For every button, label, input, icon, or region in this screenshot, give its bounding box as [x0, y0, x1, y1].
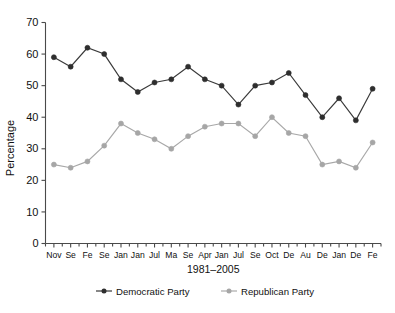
data-point-democratic	[51, 55, 56, 60]
data-point-republican	[118, 121, 123, 126]
data-point-democratic	[286, 71, 291, 76]
x-axis-title: 1981–2005	[187, 263, 240, 275]
data-point-republican	[169, 146, 174, 151]
y-axis-title: Percentage	[4, 120, 16, 176]
y-tick-label: 70	[26, 16, 38, 28]
y-tick-label: 10	[26, 206, 38, 218]
x-tick-label: Apr	[198, 250, 212, 260]
data-point-republican	[303, 134, 308, 139]
data-point-democratic	[269, 80, 274, 85]
x-tick-label: De	[350, 250, 361, 260]
data-point-republican	[236, 121, 241, 126]
series-line-republican	[54, 117, 373, 168]
y-tick-label: 0	[32, 237, 38, 249]
data-point-republican	[186, 134, 191, 139]
data-point-republican	[353, 165, 358, 170]
data-point-democratic	[337, 96, 342, 101]
x-tick-label: Jul	[233, 250, 244, 260]
y-tick-label: 60	[26, 48, 38, 60]
data-point-democratic	[118, 77, 123, 82]
x-tick-label: Oct	[265, 250, 279, 260]
y-tick-label: 50	[26, 79, 38, 91]
data-point-democratic	[68, 64, 73, 69]
x-tick-label: Jan	[114, 250, 128, 260]
data-point-democratic	[236, 102, 241, 107]
x-tick-label: Fe	[82, 250, 92, 260]
y-tick-label: 40	[26, 111, 38, 123]
x-tick-label: Jan	[332, 250, 346, 260]
series-line-democratic	[54, 48, 373, 121]
x-tick-label: Se	[183, 250, 194, 260]
line-chart: 010203040506070NovSeFeSeJanJanJulMaSeApr…	[0, 0, 395, 313]
data-point-democratic	[353, 118, 358, 123]
legend-label-democratic: Democratic Party	[116, 286, 190, 297]
x-tick-label: Jul	[149, 250, 160, 260]
data-point-democratic	[202, 77, 207, 82]
data-point-democratic	[370, 86, 375, 91]
x-tick-label: Se	[65, 250, 76, 260]
x-tick-label: De	[283, 250, 294, 260]
data-point-republican	[102, 143, 107, 148]
data-point-democratic	[303, 93, 308, 98]
x-tick-label: Se	[99, 250, 110, 260]
data-point-republican	[85, 159, 90, 164]
legend-marker-republican	[227, 289, 232, 294]
data-point-democratic	[169, 77, 174, 82]
x-tick-label: De	[317, 250, 328, 260]
data-point-republican	[253, 134, 258, 139]
chart-container: 010203040506070NovSeFeSeJanJanJulMaSeApr…	[0, 0, 395, 313]
data-point-republican	[320, 162, 325, 167]
x-tick-label: Fe	[368, 250, 378, 260]
legend-label-republican: Republican Party	[241, 286, 314, 297]
data-point-democratic	[85, 45, 90, 50]
legend-marker-democratic	[102, 289, 107, 294]
x-tick-label: Jan	[215, 250, 229, 260]
x-tick-label: Jan	[131, 250, 145, 260]
data-point-democratic	[253, 83, 258, 88]
data-point-republican	[68, 165, 73, 170]
data-point-republican	[202, 124, 207, 129]
x-tick-label: Nov	[46, 250, 62, 260]
data-point-republican	[370, 140, 375, 145]
data-point-republican	[286, 131, 291, 136]
data-point-republican	[51, 162, 56, 167]
data-point-republican	[152, 137, 157, 142]
data-point-republican	[219, 121, 224, 126]
x-tick-label: Ma	[165, 250, 177, 260]
data-point-democratic	[135, 89, 140, 94]
y-tick-label: 20	[26, 174, 38, 186]
data-point-republican	[337, 159, 342, 164]
data-point-democratic	[320, 115, 325, 120]
y-tick-label: 30	[26, 142, 38, 154]
data-point-republican	[135, 131, 140, 136]
chart-svg: 010203040506070NovSeFeSeJanJanJulMaSeApr…	[0, 0, 395, 313]
x-tick-label: Se	[250, 250, 261, 260]
data-point-democratic	[186, 64, 191, 69]
data-point-democratic	[152, 80, 157, 85]
data-point-democratic	[219, 83, 224, 88]
data-point-democratic	[102, 52, 107, 57]
data-point-republican	[269, 115, 274, 120]
x-tick-label: Au	[300, 250, 311, 260]
